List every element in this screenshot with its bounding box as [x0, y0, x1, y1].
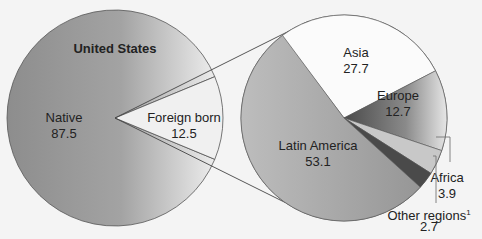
pie-chart: United StatesNative87.5Foreign born12.5A… [0, 0, 482, 239]
label-other-regions: Other regions12.7 [387, 208, 471, 234]
label-asia: Asia27.7 [343, 45, 369, 76]
left-pie-title: United States [73, 41, 156, 56]
label-africa: Africa3.9 [430, 170, 464, 201]
